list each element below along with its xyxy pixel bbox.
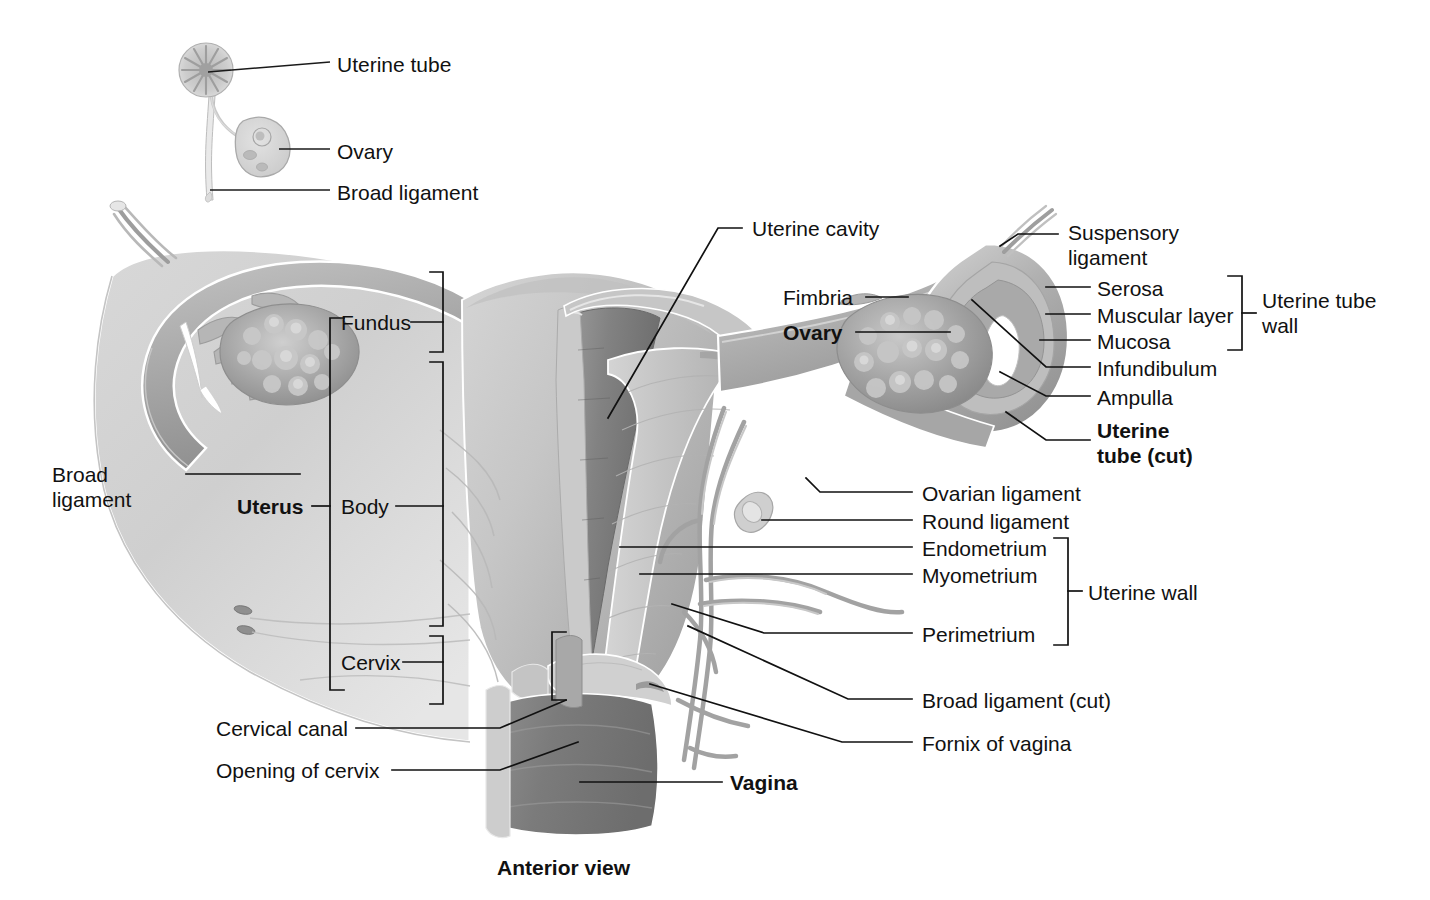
bracket-body [430, 362, 443, 626]
label-mucosa: Mucosa [1097, 329, 1171, 354]
label-serosa: Serosa [1097, 276, 1164, 301]
label-fundus: Fundus [341, 310, 411, 335]
bracket-uterine-wall [1054, 538, 1068, 645]
label-broad-ligament: Broad ligament [52, 462, 131, 512]
leader-uterine-tube-cut [1006, 412, 1090, 440]
inset-label-uterine-tube: Uterine tube [337, 52, 451, 77]
leader-infundibulum [972, 300, 1090, 367]
label-myometrium: Myometrium [922, 563, 1038, 588]
label-body: Body [341, 494, 389, 519]
leader-broad-ligament-cut [688, 626, 912, 699]
label-fornix-of-vagina: Fornix of vagina [922, 731, 1071, 756]
label-ovary: Ovary [783, 320, 843, 345]
label-suspensory-ligament: Suspensory ligament [1068, 220, 1179, 270]
figure-caption: Anterior view [497, 855, 630, 880]
leader-perimetrium [672, 604, 912, 633]
label-cervix: Cervix [341, 650, 401, 675]
inset-label-ovary: Ovary [337, 139, 393, 164]
label-uterine-tube-wall: Uterine tube wall [1262, 288, 1376, 338]
bracket-fundus [430, 272, 443, 352]
label-ampulla: Ampulla [1097, 385, 1173, 410]
label-uterine-cavity: Uterine cavity [752, 216, 879, 241]
leader-fornix-of-vagina [650, 684, 912, 742]
label-uterine-tube-cut: Uterine tube (cut) [1097, 418, 1193, 468]
label-round-ligament: Round ligament [922, 509, 1069, 534]
label-opening-of-cervix: Opening of cervix [216, 758, 379, 783]
label-broad-ligament-cut: Broad ligament (cut) [922, 688, 1111, 713]
label-endometrium: Endometrium [922, 536, 1047, 561]
leader-suspensory-ligament [1000, 234, 1058, 246]
label-uterine-wall: Uterine wall [1088, 580, 1198, 605]
label-fimbria: Fimbria [783, 285, 853, 310]
leader-cervical-canal [356, 700, 566, 728]
label-ovarian-ligament: Ovarian ligament [922, 481, 1081, 506]
label-perimetrium: Perimetrium [922, 622, 1035, 647]
label-infundibulum: Infundibulum [1097, 356, 1217, 381]
label-muscular-layer: Muscular layer [1097, 303, 1234, 328]
bracket-cervix [430, 636, 443, 704]
leader-lines-and-brackets [0, 0, 1430, 900]
inset-label-broad-ligament: Broad ligament [337, 180, 478, 205]
label-vagina: Vagina [730, 770, 798, 795]
figure-canvas: Uterine tube Ovary Broad ligament Broad … [0, 0, 1430, 900]
leader-ovarian-ligament [806, 478, 912, 492]
bracket-cervical-canal [552, 632, 566, 700]
leader-uterine-cavity [608, 228, 742, 418]
label-uterus: Uterus [237, 494, 304, 519]
leader-opening-of-cervix [392, 742, 578, 770]
label-cervical-canal: Cervical canal [216, 716, 348, 741]
leader-ampulla [1000, 372, 1090, 396]
